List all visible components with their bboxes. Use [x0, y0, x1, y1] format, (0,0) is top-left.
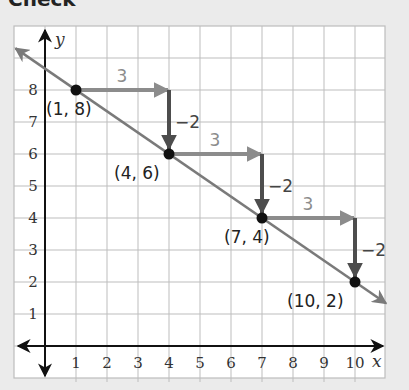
y-axis-label: y [54, 29, 65, 49]
run-label: 3 [303, 194, 314, 214]
y-tick-label: 6 [28, 145, 38, 163]
x-tick-label: 9 [319, 354, 329, 372]
data-point [350, 277, 361, 288]
x-tick-label: 1 [71, 354, 81, 372]
run-label: 3 [117, 66, 128, 86]
point-label: (7, 4) [224, 227, 270, 247]
y-tick-label: 7 [28, 113, 38, 131]
data-point [164, 149, 175, 160]
point-label: (4, 6) [114, 163, 160, 183]
coordinate-plane: xy 1234567891012345678 3−23−23−2 (1, 8)(… [0, 0, 409, 390]
x-tick-label: 10 [345, 354, 364, 372]
data-point [71, 85, 82, 96]
y-tick-label: 3 [28, 241, 38, 259]
x-axis-label: x [372, 351, 382, 371]
x-tick-label: 3 [133, 354, 143, 372]
x-tick-label: 8 [288, 354, 298, 372]
x-tick-label: 2 [102, 354, 112, 372]
y-tick-label: 2 [28, 273, 38, 291]
run-label: 3 [210, 130, 221, 150]
y-tick-label: 8 [28, 81, 38, 99]
grid [14, 26, 385, 378]
y-tick-label: 1 [28, 305, 38, 323]
x-tick-label: 7 [257, 354, 267, 372]
x-tick-label: 5 [195, 354, 205, 372]
rise-label: −2 [361, 240, 386, 260]
data-point [257, 213, 268, 224]
point-label: (10, 2) [287, 291, 344, 311]
rise-label: −2 [175, 112, 200, 132]
point-label: (1, 8) [46, 99, 92, 119]
x-tick-label: 4 [164, 354, 174, 372]
y-tick-label: 4 [28, 209, 38, 227]
x-tick-label: 6 [226, 354, 236, 372]
y-tick-label: 5 [28, 177, 38, 195]
rise-label: −2 [268, 176, 293, 196]
